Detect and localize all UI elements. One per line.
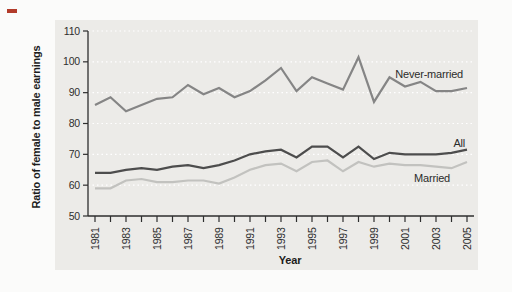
y-tick-label: 100: [63, 55, 80, 67]
y-tick-label: 50: [69, 210, 81, 222]
x-tick-label: 1985: [151, 227, 163, 250]
x-tick-label: 1995: [306, 227, 318, 250]
x-tick-label: 1991: [244, 227, 256, 250]
x-tick-label: 1989: [213, 227, 225, 250]
line-chart: 5060708090100110 19811983198519871989199…: [0, 0, 512, 292]
x-tick-label: 1999: [368, 227, 380, 250]
x-tick-label: 1993: [275, 227, 287, 250]
series-label-never-married: Never-married: [395, 68, 463, 80]
plot-panel: [55, 20, 478, 270]
x-tick-label: 2003: [430, 227, 442, 250]
x-tick-label: 2001: [399, 227, 411, 250]
y-tick-label: 70: [69, 148, 81, 160]
x-tick-label: 1997: [337, 227, 349, 250]
x-tick-label: 1983: [120, 227, 132, 250]
y-tick-label: 110: [64, 25, 80, 37]
earnings-ratio-chart-figure: 5060708090100110 19811983198519871989199…: [0, 0, 512, 292]
x-axis-title: Year: [279, 254, 302, 266]
y-tick-label: 90: [69, 86, 81, 98]
x-tick-label: 1981: [89, 227, 101, 250]
y-tick-label: 60: [69, 179, 81, 191]
series-label-married: Married: [414, 172, 450, 184]
x-tick-label: 1987: [182, 227, 194, 250]
y-tick-label: 80: [69, 117, 81, 129]
y-axis-title: Ratio of female to male earnings: [30, 45, 42, 208]
x-tick-label: 2005: [461, 227, 473, 250]
series-label-all: All: [453, 137, 465, 149]
